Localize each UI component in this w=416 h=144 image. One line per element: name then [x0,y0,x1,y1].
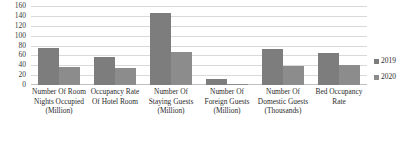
legend-label: 2019 [381,57,396,65]
bar-2019 [94,57,115,85]
y-axis: 160140120100806040200 [0,0,29,85]
bar-group [143,6,199,85]
x-axis-category-label: Number Of Foreign Guests (Million) [199,87,255,116]
bar-2019 [206,79,227,85]
x-axis-category-label: Number Of Room Nights Occupied (Million) [31,87,87,116]
x-axis-category-label: Number Of Domestic Guests (Thousands) [255,87,311,116]
y-axis-tick-label: 120 [15,22,26,30]
bar-2020 [171,52,192,85]
bar-2020 [227,84,248,85]
bar-2020 [283,66,304,85]
legend-square-marker-icon [374,59,379,64]
bar-2019 [38,48,59,85]
bar-2020 [339,65,360,85]
y-axis-tick-label: 140 [15,12,26,20]
chart-legend: 20192020 [374,57,416,89]
legend-square-marker-icon [374,75,379,80]
bar-group [199,6,255,85]
plot-area [31,6,367,85]
bar-2019 [150,13,171,85]
x-axis-category-label: Occupancy Rate Of Hotel Room [87,87,143,116]
y-axis-tick-label: 80 [19,42,27,50]
x-axis-category-label: Bed Occupancy Rate [311,87,367,116]
legend-item[interactable]: 2020 [374,73,416,81]
bar-chart: 160140120100806040200 Number Of Room Nig… [0,0,416,144]
bar-2020 [59,67,80,85]
bars-layer [31,6,367,85]
bar-group [311,6,367,85]
bar-group [87,6,143,85]
x-axis-category-label: Number Of Staying Guests (Million) [143,87,199,116]
legend-label: 2020 [381,73,396,81]
bar-2019 [262,49,283,85]
bar-group [31,6,87,85]
y-axis-tick-label: 0 [22,81,26,89]
y-axis-tick-label: 160 [15,2,26,10]
bar-2019 [318,53,339,85]
y-axis-tick-label: 40 [19,61,27,69]
legend-item[interactable]: 2019 [374,57,416,65]
y-axis-tick-label: 20 [19,71,27,79]
y-axis-tick-label: 60 [19,51,27,59]
bar-2020 [115,68,136,85]
bar-group [255,6,311,85]
y-axis-tick-label: 100 [15,32,26,40]
x-axis: Number Of Room Nights Occupied (Million)… [31,87,367,116]
